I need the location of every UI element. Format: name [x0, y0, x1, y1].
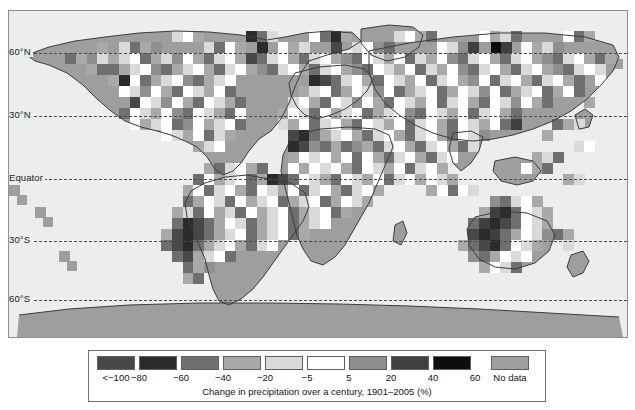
latitude-gridline	[9, 53, 627, 54]
map-panel	[8, 10, 628, 338]
coastline-layer	[9, 11, 628, 338]
latitude-gridline	[9, 241, 627, 242]
latitude-gridline	[9, 179, 627, 180]
precipitation-change-world-map: 60°N30°NEquator30°S60°S <−100−80−60−40−2…	[0, 0, 635, 410]
legend-swatch	[97, 356, 135, 370]
legend-swatch	[433, 356, 471, 370]
legend-swatch	[349, 356, 387, 370]
legend-swatch	[265, 356, 303, 370]
latitude-label: 30°N	[9, 109, 33, 120]
latitude-label: 30°S	[9, 234, 32, 245]
legend-swatch	[181, 356, 219, 370]
latitude-gridline	[9, 116, 627, 117]
latitude-label: 60°S	[9, 293, 32, 304]
legend-swatch	[391, 356, 429, 370]
legend-caption: Change in precipitation over a century, …	[89, 386, 545, 397]
legend-swatch-no-data	[491, 356, 529, 370]
legend-swatch	[223, 356, 261, 370]
legend-swatch	[139, 356, 177, 370]
legend-swatch	[307, 356, 345, 370]
legend: <−100−80−60−40−20−55204060No data Change…	[88, 350, 546, 402]
legend-label: No data	[480, 372, 540, 383]
latitude-label: 60°N	[9, 46, 33, 57]
latitude-label: Equator	[9, 172, 45, 183]
latitude-gridline	[9, 300, 627, 301]
